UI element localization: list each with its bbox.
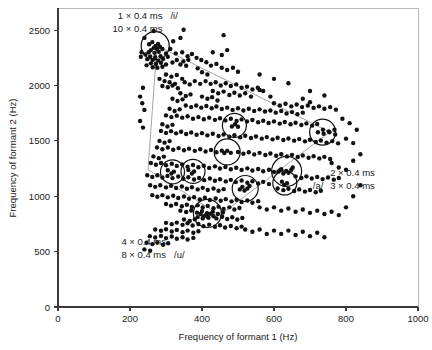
data-point [306, 156, 310, 160]
data-point [192, 195, 196, 199]
data-point [174, 202, 178, 206]
data-point [272, 205, 276, 209]
data-point [252, 152, 256, 156]
data-point [169, 171, 173, 175]
data-point [227, 93, 231, 97]
data-point [216, 212, 220, 216]
data-point [207, 115, 211, 119]
x-tick-label-800: 800 [338, 313, 354, 324]
data-point [232, 207, 236, 211]
data-point [164, 72, 168, 76]
data-point [182, 148, 186, 152]
data-point [167, 139, 171, 143]
data-point [315, 122, 319, 126]
data-point [183, 80, 187, 84]
data-point [175, 220, 179, 224]
data-point [211, 50, 215, 54]
data-point [159, 61, 163, 65]
data-point [166, 241, 170, 245]
data-point [316, 130, 320, 134]
plot-frame [58, 8, 418, 307]
data-point [256, 120, 260, 124]
data-point [158, 183, 162, 187]
data-point [219, 198, 223, 202]
data-point [171, 148, 175, 152]
data-point [272, 119, 276, 123]
data-point [188, 82, 192, 86]
i-annot-line-2: 10 × 0.4 ms [112, 23, 162, 34]
data-point [203, 149, 207, 153]
data-point [138, 119, 142, 123]
data-point [279, 208, 283, 212]
data-point [142, 108, 146, 112]
data-point [148, 183, 152, 187]
data-point [182, 194, 186, 198]
data-point [149, 61, 153, 65]
data-point [162, 79, 166, 83]
data-point [223, 225, 227, 229]
data-point [265, 135, 269, 139]
data-point [245, 166, 249, 170]
data-point [286, 228, 290, 232]
data-point [224, 81, 228, 85]
data-point [170, 229, 174, 233]
data-point [227, 205, 231, 209]
data-point [152, 51, 156, 55]
data-point [247, 150, 251, 154]
data-point [215, 98, 219, 102]
data-point [240, 216, 244, 220]
data-point [166, 145, 170, 149]
data-point [164, 131, 168, 135]
data-point [179, 130, 183, 134]
data-point [263, 153, 267, 157]
data-point [286, 187, 290, 191]
data-point [301, 207, 305, 211]
data-point [138, 94, 142, 98]
data-point [204, 60, 208, 64]
data-point [191, 231, 195, 235]
data-point [164, 185, 168, 189]
data-point [221, 187, 225, 191]
data-point [157, 77, 161, 81]
data-point [180, 230, 184, 234]
data-point [219, 83, 223, 87]
x-axis-ticks: 02004006008001000 [55, 307, 428, 324]
data-point [229, 224, 233, 228]
data-points-layer [138, 28, 363, 253]
data-point [250, 118, 254, 122]
data-point [336, 141, 340, 145]
data-point [199, 58, 203, 62]
data-point [180, 184, 184, 188]
data-point [242, 188, 246, 192]
data-point [189, 208, 193, 212]
data-point [293, 233, 297, 237]
data-point [211, 132, 215, 136]
data-point [196, 115, 200, 119]
data-point [164, 227, 168, 231]
y-tick-label-2000: 2000 [29, 80, 50, 91]
data-point [275, 136, 279, 140]
data-point [234, 165, 238, 169]
data-point [311, 154, 315, 158]
y-axis-title: Frequency of formant 2 (Hz) [7, 99, 18, 218]
a-annot-line-2: 3 × 0.4 ms [330, 180, 375, 191]
data-point [200, 94, 204, 98]
data-point [185, 114, 189, 118]
data-point [329, 161, 333, 165]
data-point [315, 208, 319, 212]
data-point [224, 179, 228, 183]
data-point [155, 195, 159, 199]
data-point [191, 236, 195, 240]
data-point [174, 186, 178, 190]
data-point [198, 147, 202, 151]
data-point [327, 130, 331, 134]
data-point [207, 222, 211, 226]
data-point [229, 167, 233, 171]
data-point [206, 215, 210, 219]
data-point [144, 63, 148, 67]
data-point [351, 141, 355, 145]
x-tick-label-0: 0 [55, 313, 60, 324]
data-point [157, 139, 161, 143]
data-point [241, 152, 245, 156]
data-point [220, 53, 224, 57]
